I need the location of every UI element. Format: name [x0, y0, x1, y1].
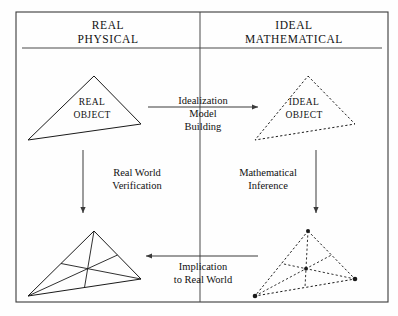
diagram-frame — [16, 12, 388, 302]
ideal-object-analysed-triangle-dot-3 — [253, 294, 258, 299]
column-heading-real-physical-line2: PHYSICAL — [77, 33, 138, 45]
implication-arrow-label-line2: to Real World — [174, 274, 233, 285]
ideal-object-analysed-triangle-cevian-3 — [255, 255, 332, 296]
ideal-object-analysed-triangle-dot-4 — [304, 267, 308, 271]
idealization-arrow-label-line3: Building — [185, 121, 223, 132]
real-world-verification-arrow-label-line2: Verification — [112, 180, 162, 191]
implication-arrow-label-line1: Implication — [179, 261, 228, 272]
real-object-analysed-triangle-cevian-2 — [61, 264, 141, 280]
implication-arrow: Implicationto Real World — [146, 253, 258, 285]
real-object-analysed-triangle-cevian-3 — [28, 255, 118, 296]
real-object-analysed-triangle — [28, 231, 141, 296]
implication-arrow-head — [146, 253, 152, 258]
real-object-triangle-label-line1: REAL — [79, 97, 105, 107]
real-object-triangle-label-line2: OBJECT — [73, 110, 110, 120]
real-world-verification-arrow-label-line1: Real World — [113, 167, 161, 178]
ideal-object-analysed-triangle-outline — [255, 231, 355, 296]
ideal-object-analysed-triangle-cevian-1 — [305, 231, 308, 288]
mathematical-inference-arrow-label-line2: Inference — [248, 180, 288, 191]
idealization-arrow-label-line1: Idealization — [178, 95, 228, 106]
idealization-arrow-label-line2: Model — [189, 108, 216, 119]
ideal-object-triangle: IDEALOBJECT — [255, 76, 355, 140]
real-object-triangle: REALOBJECT — [28, 76, 141, 140]
mathematical-inference-arrow-label-line1: Mathematical — [239, 167, 297, 178]
modeling-cycle-diagram: REALPHYSICALIDEALMATHEMATICAL REALOBJECT… — [0, 0, 398, 316]
column-headings: REALPHYSICALIDEALMATHEMATICAL — [77, 19, 342, 45]
real-world-verification-arrow: Real WorldVerification — [80, 150, 162, 213]
real-object-triangle-outline — [28, 76, 141, 140]
idealization-arrow-head — [252, 104, 258, 109]
ideal-object-analysed-triangle-dot-1 — [306, 229, 310, 233]
ideal-object-triangle-outline — [255, 76, 355, 140]
ideal-object-analysed-triangle-cevian-2 — [282, 264, 356, 280]
ideal-object-analysed-triangle — [253, 229, 358, 298]
ideal-object-triangle-label-line2: OBJECT — [285, 110, 322, 120]
column-heading-ideal-mathematical-line1: IDEAL — [275, 19, 313, 31]
column-heading-real-physical-line1: REAL — [92, 19, 124, 31]
idealization-arrow: IdealizationModelBuilding — [148, 95, 258, 132]
mathematical-inference-arrow: MathematicalInference — [239, 150, 318, 213]
mathematical-inference-arrow-head — [313, 207, 318, 213]
diagram-canvas: REALPHYSICALIDEALMATHEMATICAL REALOBJECT… — [0, 0, 398, 316]
ideal-object-triangle-label-line1: IDEAL — [289, 97, 320, 107]
real-world-verification-arrow-head — [80, 207, 85, 213]
ideal-object-analysed-triangle-dot-2 — [353, 277, 358, 282]
column-heading-ideal-mathematical-line2: MATHEMATICAL — [245, 33, 343, 45]
